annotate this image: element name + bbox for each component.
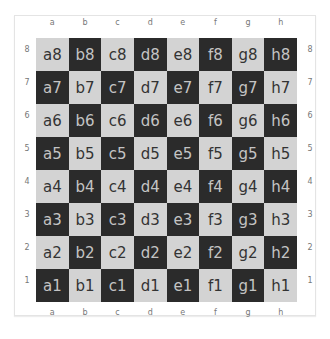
square-dark[interactable]: g3 [232, 203, 265, 236]
square-dark[interactable]: g1 [232, 269, 265, 302]
square-dark[interactable]: f2 [199, 236, 232, 269]
square-dark[interactable]: h4 [264, 170, 297, 203]
file-label: e [167, 308, 200, 317]
square-dark[interactable]: b4 [69, 170, 102, 203]
square-light[interactable]: d3 [134, 203, 167, 236]
square-light[interactable]: g4 [232, 170, 265, 203]
square-light[interactable]: e2 [167, 236, 200, 269]
square-dark[interactable]: e3 [167, 203, 200, 236]
square-dark[interactable]: e7 [167, 71, 200, 104]
square-light[interactable]: b5 [69, 137, 102, 170]
square-light[interactable]: g8 [232, 38, 265, 71]
file-label: f [199, 308, 232, 317]
file-label: c [101, 18, 134, 27]
file-label: b [69, 308, 102, 317]
square-light[interactable]: f3 [199, 203, 232, 236]
square-light[interactable]: c4 [101, 170, 134, 203]
square-dark[interactable]: g5 [232, 137, 265, 170]
square-light[interactable]: g2 [232, 236, 265, 269]
rank-label: 6 [20, 104, 34, 137]
square-dark[interactable]: a3 [36, 203, 69, 236]
square-light[interactable]: e8 [167, 38, 200, 71]
file-label: d [134, 18, 167, 27]
square-light[interactable]: d7 [134, 71, 167, 104]
square-dark[interactable]: c7 [101, 71, 134, 104]
rank-label: 4 [303, 170, 317, 203]
square-dark[interactable]: e1 [167, 269, 200, 302]
rank-label: 8 [20, 38, 34, 71]
square-dark[interactable]: f6 [199, 104, 232, 137]
square-light[interactable]: h1 [264, 269, 297, 302]
square-light[interactable]: g6 [232, 104, 265, 137]
square-light[interactable]: e4 [167, 170, 200, 203]
file-label: d [134, 308, 167, 317]
square-light[interactable]: b7 [69, 71, 102, 104]
file-label: c [101, 308, 134, 317]
square-dark[interactable]: c5 [101, 137, 134, 170]
square-light[interactable]: h7 [264, 71, 297, 104]
square-dark[interactable]: a5 [36, 137, 69, 170]
square-light[interactable]: b3 [69, 203, 102, 236]
square-dark[interactable]: h2 [264, 236, 297, 269]
rank-labels-right: 8 7 6 5 4 3 2 1 [303, 38, 317, 302]
square-dark[interactable]: f8 [199, 38, 232, 71]
square-light[interactable]: a2 [36, 236, 69, 269]
square-light[interactable]: d1 [134, 269, 167, 302]
square-light[interactable]: a6 [36, 104, 69, 137]
square-dark[interactable]: c3 [101, 203, 134, 236]
file-labels-bottom: a b c d e f g h [36, 308, 297, 317]
rank-label: 3 [20, 203, 34, 236]
rank-label: 6 [303, 104, 317, 137]
square-dark[interactable]: h6 [264, 104, 297, 137]
file-label: g [232, 308, 265, 317]
file-label: h [264, 308, 297, 317]
rank-label: 2 [303, 236, 317, 269]
square-light[interactable]: f1 [199, 269, 232, 302]
square-light[interactable]: h3 [264, 203, 297, 236]
square-dark[interactable]: a7 [36, 71, 69, 104]
rank-label: 8 [303, 38, 317, 71]
square-light[interactable]: a4 [36, 170, 69, 203]
square-dark[interactable]: b6 [69, 104, 102, 137]
square-light[interactable]: c2 [101, 236, 134, 269]
rank-label: 5 [20, 137, 34, 170]
file-label: h [264, 18, 297, 27]
square-dark[interactable]: a1 [36, 269, 69, 302]
square-dark[interactable]: d6 [134, 104, 167, 137]
rank-label: 7 [303, 71, 317, 104]
chessboard: a8b8c8d8e8f8g8h8a7b7c7d7e7f7g7h7a6b6c6d6… [36, 38, 297, 302]
file-label: a [36, 308, 69, 317]
square-light[interactable]: e6 [167, 104, 200, 137]
file-labels-top: a b c d e f g h [36, 18, 297, 27]
rank-label: 4 [20, 170, 34, 203]
square-dark[interactable]: c1 [101, 269, 134, 302]
square-light[interactable]: a8 [36, 38, 69, 71]
square-light[interactable]: f7 [199, 71, 232, 104]
rank-label: 1 [20, 269, 34, 302]
square-dark[interactable]: d8 [134, 38, 167, 71]
square-dark[interactable]: g7 [232, 71, 265, 104]
file-label: b [69, 18, 102, 27]
rank-label: 5 [303, 137, 317, 170]
file-label: a [36, 18, 69, 27]
rank-labels-left: 8 7 6 5 4 3 2 1 [20, 38, 34, 302]
rank-label: 7 [20, 71, 34, 104]
square-light[interactable]: h5 [264, 137, 297, 170]
file-label: g [232, 18, 265, 27]
square-dark[interactable]: b2 [69, 236, 102, 269]
square-light[interactable]: d5 [134, 137, 167, 170]
square-dark[interactable]: h8 [264, 38, 297, 71]
square-dark[interactable]: e5 [167, 137, 200, 170]
square-light[interactable]: f5 [199, 137, 232, 170]
file-label: e [167, 18, 200, 27]
rank-label: 3 [303, 203, 317, 236]
rank-label: 1 [303, 269, 317, 302]
square-dark[interactable]: f4 [199, 170, 232, 203]
square-dark[interactable]: b8 [69, 38, 102, 71]
square-light[interactable]: b1 [69, 269, 102, 302]
square-dark[interactable]: d4 [134, 170, 167, 203]
square-light[interactable]: c6 [101, 104, 134, 137]
square-dark[interactable]: d2 [134, 236, 167, 269]
square-light[interactable]: c8 [101, 38, 134, 71]
file-label: f [199, 18, 232, 27]
